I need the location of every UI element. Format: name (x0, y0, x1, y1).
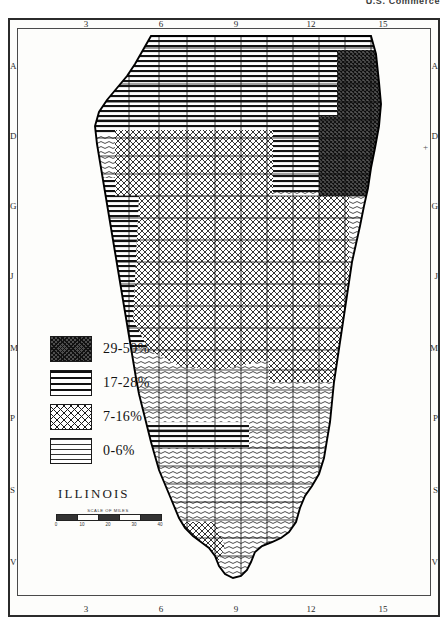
right-graticule-M: M (430, 343, 438, 353)
legend-swatch-0-6-icon (50, 438, 92, 464)
scale-bar-caption: SCALE OF MILES (56, 508, 160, 513)
left-graticule-D: D (10, 131, 17, 141)
right-graticule-A: A (432, 61, 439, 71)
right-graticule-J: J (434, 271, 438, 281)
left-graticule-J: J (10, 271, 14, 281)
right-graticule-S: S (433, 485, 438, 495)
map-scale-bar: SCALE OF MILES 0 10 20 30 40 (56, 508, 160, 531)
region-central-east (269, 326, 341, 382)
map-legend: 29-59% 17-28% 7-16% 0-6% (50, 336, 200, 472)
legend-swatch-17-28-icon (50, 370, 92, 396)
legend-label-0-6: 0-6% (103, 443, 135, 459)
left-graticule-V: V (10, 557, 17, 567)
region-northwest (115, 130, 273, 196)
scale-tick-10: 10 (79, 522, 84, 527)
left-graticule-P: P (10, 413, 15, 423)
scale-bar-ticks: 0 10 20 30 40 (56, 522, 160, 531)
bottom-graticule-9: 9 (234, 604, 239, 614)
right-graticule-G: G (432, 201, 439, 211)
top-graticule-3: 3 (84, 19, 89, 29)
scale-tick-30: 30 (131, 522, 136, 527)
scale-tick-0: 0 (55, 522, 58, 527)
left-graticule-M: M (10, 343, 18, 353)
right-graticule-V: V (432, 557, 439, 567)
legend-item-17-28[interactable]: 17-28% (50, 370, 200, 396)
legend-label-7-16: 7-16% (103, 409, 142, 425)
legend-swatch-7-16-icon (50, 404, 92, 430)
scale-tick-20: 20 (105, 522, 110, 527)
left-graticule-A: A (10, 61, 17, 71)
bottom-graticule-6: 6 (159, 604, 164, 614)
page-header-text: U.S. Commerce (366, 0, 440, 6)
bottom-graticule-15: 15 (379, 604, 388, 614)
right-graticule-P: P (433, 413, 438, 423)
left-graticule-G: G (10, 201, 17, 211)
scale-bar-graphic (56, 514, 162, 521)
top-graticule-9: 9 (234, 19, 239, 29)
legend-label-17-28: 17-28% (103, 375, 150, 391)
legend-swatch-29-59-icon (50, 336, 92, 362)
map-state-title: ILLINOIS (58, 486, 130, 502)
legend-item-29-59[interactable]: 29-59% (50, 336, 200, 362)
bottom-graticule-12: 12 (307, 604, 316, 614)
top-graticule-15: 15 (379, 19, 388, 29)
bottom-graticule-3: 3 (84, 604, 89, 614)
top-graticule-12: 12 (307, 19, 316, 29)
legend-label-29-59: 29-59% (103, 341, 150, 357)
left-graticule-S: S (10, 485, 15, 495)
right-graticule-D: D (432, 131, 439, 141)
top-graticule-6: 6 (159, 19, 164, 29)
legend-item-0-6[interactable]: 0-6% (50, 438, 200, 464)
legend-item-7-16[interactable]: 7-16% (50, 404, 200, 430)
scale-tick-40: 40 (157, 522, 162, 527)
